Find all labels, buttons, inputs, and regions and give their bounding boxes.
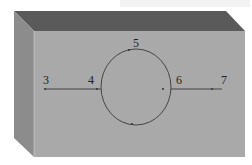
circle-bottom-marker [131, 123, 133, 125]
block-top-face [14, 11, 245, 31]
point-label-6: 6 [176, 73, 182, 87]
point-5-marker [128, 49, 130, 51]
point-6-marker [162, 88, 164, 90]
point-label-3: 3 [43, 73, 49, 87]
point-3-marker [44, 88, 46, 90]
point-4-marker [96, 88, 98, 90]
block-left-face [14, 11, 34, 157]
block-front-face [34, 31, 245, 157]
block-diagram: 34567 [0, 0, 252, 165]
point-label-7: 7 [221, 73, 227, 87]
point-7-marker [211, 88, 213, 90]
point-label-5: 5 [133, 36, 139, 50]
point-label-4: 4 [88, 73, 94, 87]
scan-bleed-through [120, 0, 250, 7]
